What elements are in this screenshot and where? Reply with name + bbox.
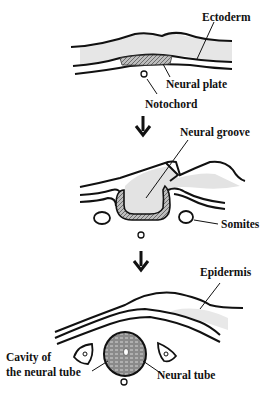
neurulation-diagram: Ectoderm Neural plate Notochord Neural g… <box>0 0 278 399</box>
neural-tube-cavity <box>124 349 129 356</box>
stage-3-neural-tube: Epidermis Cavity of the neural tube Neur… <box>6 266 252 385</box>
label-epidermis: Epidermis <box>200 266 252 279</box>
label-somites: Somites <box>221 218 260 230</box>
stage-1-neural-plate: Ectoderm Neural plate Notochord <box>71 11 251 110</box>
neural-plate-shape <box>120 55 172 65</box>
label-neural-plate: Neural plate <box>166 78 227 91</box>
somite-right <box>179 211 193 223</box>
label-neural-tube: Neural tube <box>157 369 215 381</box>
somite-left-core <box>83 352 87 356</box>
mesoderm-line <box>75 64 232 74</box>
notochord-leader <box>147 79 157 94</box>
mesoderm-left-line <box>80 198 116 206</box>
notochord-circle-2 <box>138 232 144 238</box>
label-notochord: Notochord <box>145 98 198 110</box>
cavity-leader <box>92 361 108 371</box>
notochord-circle-3 <box>121 379 127 385</box>
down-arrow-icon <box>136 116 150 135</box>
label-ectoderm: Ectoderm <box>202 11 251 23</box>
label-neural-groove: Neural groove <box>180 126 250 139</box>
somites-leader <box>194 220 218 224</box>
notochord-circle <box>141 71 147 77</box>
label-cavity-line2: the neural tube <box>6 366 81 378</box>
down-arrow-icon <box>134 251 148 270</box>
ectoderm-right-line <box>168 188 225 203</box>
neural-plate-leader <box>163 64 170 77</box>
label-cavity-line1: Cavity of <box>6 351 51 364</box>
somite-right-core <box>164 352 168 356</box>
ectoderm-left-line <box>80 190 122 196</box>
epidermis-shading <box>170 309 228 330</box>
somite-left <box>94 212 110 224</box>
stage-2-neural-groove: Neural groove Somites <box>80 126 260 238</box>
